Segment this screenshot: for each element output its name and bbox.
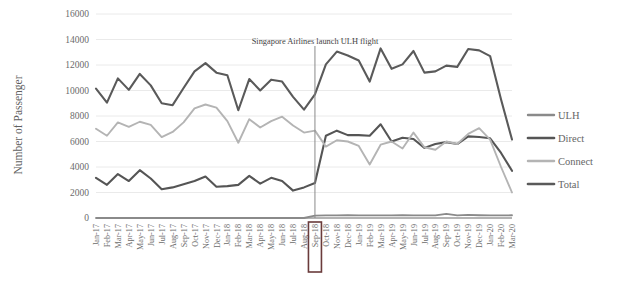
y-tick-label: 2000 — [70, 188, 89, 198]
x-tick-label: Feb-18 — [234, 224, 243, 247]
y-tick-label: 0 — [84, 213, 89, 223]
x-tick-label: Jan-20 — [486, 224, 495, 246]
x-axis-tick-labels: Jan-17Feb-17Mar-17Apr-17May-17Jun-17Jul-… — [92, 224, 517, 250]
x-tick-label: Feb-17 — [103, 224, 112, 247]
y-tick-label: 6000 — [70, 137, 89, 147]
x-tick-label: Apr-19 — [388, 224, 397, 247]
chart-svg: 0200040006000800010000120001400016000 Si… — [0, 0, 622, 288]
y-tick-label: 14000 — [65, 35, 89, 45]
x-tick-label: Jan-18 — [223, 224, 232, 246]
y-tick-label: 10000 — [65, 86, 89, 96]
series-line-connect — [96, 105, 512, 193]
x-tick-label: Feb-20 — [497, 224, 506, 247]
x-tick-label: Mar-19 — [377, 224, 386, 248]
x-tick-label: Sep-17 — [180, 224, 189, 247]
x-tick-label: Oct-19 — [453, 224, 462, 247]
passenger-line-chart: 0200040006000800010000120001400016000 Si… — [0, 0, 622, 288]
x-tick-label: Dec-19 — [475, 224, 484, 248]
x-tick-label: Sep-18 — [311, 224, 320, 247]
x-tick-label: May-17 — [136, 224, 145, 250]
x-tick-label: Sep-19 — [442, 224, 451, 247]
y-axis-tick-labels: 0200040006000800010000120001400016000 — [65, 9, 89, 223]
legend-label-total: Total — [558, 179, 580, 190]
x-tick-label: Dec-17 — [213, 224, 222, 248]
annotation-label: Singapore Airlines launch ULH flight — [252, 37, 379, 46]
y-tick-label: 8000 — [70, 111, 89, 121]
x-tick-label: May-19 — [399, 224, 408, 250]
x-tick-label: Apr-17 — [125, 224, 134, 247]
x-tick-label: Oct-18 — [322, 224, 331, 247]
x-tick-label: Jan-19 — [355, 224, 364, 246]
y-tick-label: 12000 — [65, 60, 89, 70]
x-tick-label: Aug-19 — [431, 224, 440, 249]
x-tick-label: Mar-20 — [508, 224, 517, 248]
x-tick-label: Jul-19 — [421, 224, 430, 244]
x-tick-label: Nov-18 — [333, 224, 342, 249]
chart-plot-area: 0200040006000800010000120001400016000 Si… — [0, 0, 622, 288]
series-line-total — [96, 48, 512, 139]
x-tick-label: Aug-17 — [169, 224, 178, 249]
x-tick-label: Jul-18 — [289, 224, 298, 244]
x-tick-label: Mar-17 — [114, 224, 123, 248]
x-tick-label: Jan-17 — [92, 224, 101, 246]
y-tick-label: 16000 — [65, 9, 89, 19]
x-tick-label: Dec-18 — [344, 224, 353, 248]
legend-label-connect: Connect — [558, 156, 593, 167]
x-tick-label: Feb-19 — [366, 224, 375, 247]
x-tick-label: Apr-18 — [256, 224, 265, 247]
y-tick-label: 4000 — [70, 162, 89, 172]
x-tick-label: Jun-19 — [410, 224, 419, 246]
x-tick-label: Nov-19 — [464, 224, 473, 249]
x-tick-label: Mar-18 — [245, 224, 254, 248]
legend-label-direct: Direct — [558, 133, 584, 144]
x-tick-label: May-18 — [267, 224, 276, 250]
x-tick-label: Jun-18 — [278, 224, 287, 246]
y-axis-title: Number of Passenger — [12, 75, 25, 174]
x-tick-label: Jul-17 — [158, 224, 167, 244]
x-tick-label: Jun-17 — [147, 224, 156, 246]
legend-label-ulh: ULH — [558, 110, 580, 121]
chart-legend: ULHDirectConnectTotal — [528, 110, 593, 190]
x-tick-label: Nov-17 — [202, 224, 211, 249]
x-tick-label: Oct-17 — [191, 224, 200, 247]
